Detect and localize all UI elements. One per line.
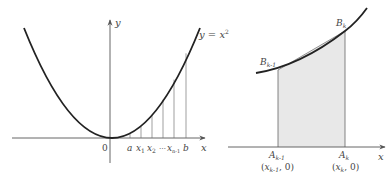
partition-ordinates <box>130 53 186 138</box>
origin-label: 0 <box>102 143 108 153</box>
right-x-axis-label: x <box>378 151 384 162</box>
left-x-axis-label: x <box>201 142 207 153</box>
left-y-axis-label: y <box>114 17 121 28</box>
left-panel: y = x2 y x 0 a x1 x2 … xn-1 b <box>12 17 229 163</box>
parabola-curve <box>24 28 200 138</box>
svg-text:x2: x2 <box>147 143 156 154</box>
svg-text:x1: x1 <box>136 143 145 154</box>
shaded-trapezoid <box>278 31 345 147</box>
right-panel: x Bk-1 Bk Ak-1 Ak (xk-1, 0) (xk, 0) <box>228 8 385 173</box>
figure-canvas: y = x2 y x 0 a x1 x2 … xn-1 b x Bk-1 B <box>0 0 391 174</box>
svg-text:b: b <box>183 143 189 153</box>
svg-text:…: … <box>159 143 166 151</box>
point-B-curr-label: Bk <box>335 18 347 29</box>
point-A-curr-label: Ak <box>338 150 350 161</box>
svg-text:xn-1: xn-1 <box>167 143 180 154</box>
point-B-prev-label: Bk-1 <box>259 57 276 68</box>
svg-text:a: a <box>127 143 132 153</box>
partition-labels: a x1 x2 … xn-1 b <box>127 143 189 154</box>
point-A-prev-label: Ak-1 <box>268 150 285 161</box>
coord-A-prev: (xk-1, 0) <box>261 162 294 173</box>
curve-label: y = x2 <box>198 28 229 40</box>
coord-A-curr: (xk, 0) <box>332 162 359 173</box>
